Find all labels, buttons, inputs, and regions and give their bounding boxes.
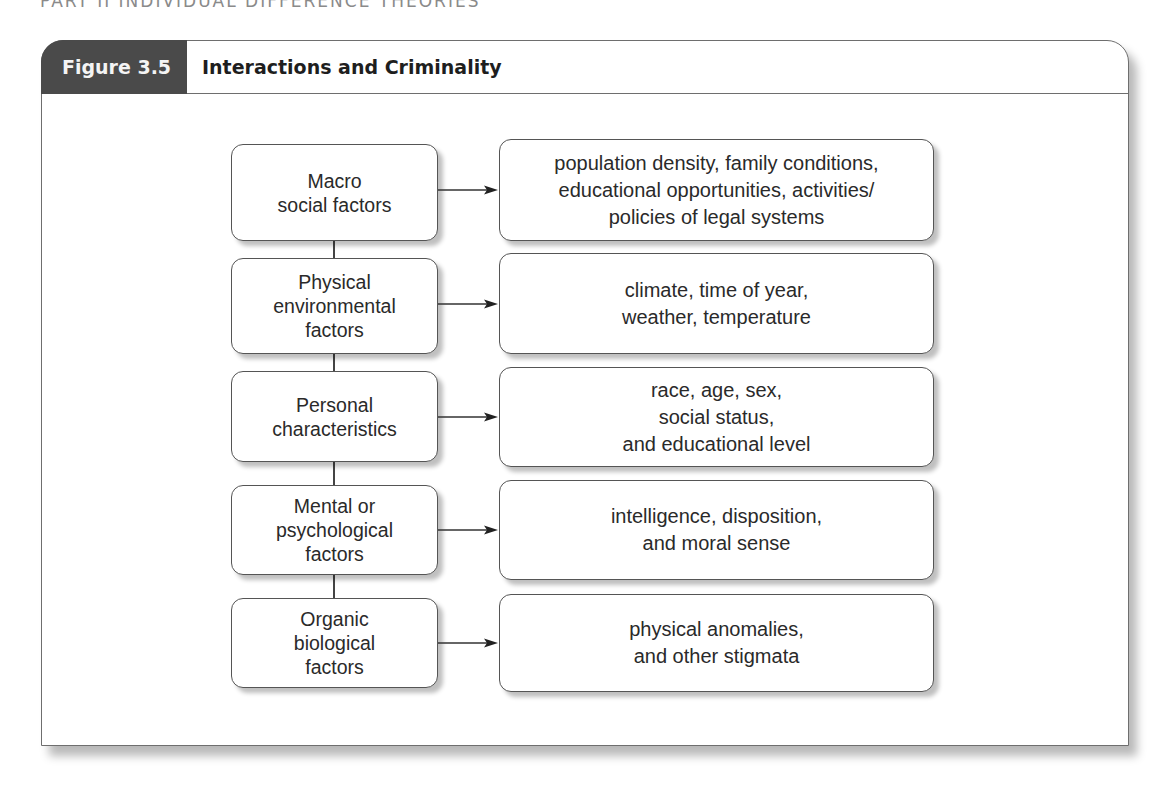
- factor-box-personal-characteristics: Personal characteristics: [231, 371, 438, 462]
- examples-box-personal-characteristics: race, age, sex, social status, and educa…: [499, 367, 934, 467]
- examples-box-organic-biological: physical anomalies, and other stigmata: [499, 594, 934, 692]
- connector-line: [333, 354, 335, 371]
- arrow-right-icon: [438, 298, 498, 310]
- arrow-right-icon: [438, 637, 498, 649]
- figure-title: Interactions and Criminality: [202, 41, 502, 93]
- figure-label: Figure 3.5: [41, 40, 187, 94]
- running-head: PART II INDIVIDUAL DIFFERENCE THEORIES: [40, 0, 480, 11]
- arrow-right-icon: [438, 411, 498, 423]
- factor-box-macro-social: Macro social factors: [231, 144, 438, 241]
- arrow-right-icon: [438, 524, 498, 536]
- connector-line: [333, 575, 335, 598]
- examples-box-physical-environmental: climate, time of year, weather, temperat…: [499, 253, 934, 354]
- examples-box-mental-psychological: intelligence, disposition, and moral sen…: [499, 480, 934, 580]
- connector-line: [333, 240, 335, 258]
- factor-box-mental-psychological: Mental or psychological factors: [231, 485, 438, 575]
- figure-header: Figure 3.5 Interactions and Criminality: [42, 41, 1128, 94]
- factor-box-organic-biological: Organic biological factors: [231, 598, 438, 688]
- arrow-right-icon: [438, 184, 498, 196]
- examples-box-macro-social: population density, family conditions, e…: [499, 139, 934, 241]
- factor-box-physical-environmental: Physical environmental factors: [231, 258, 438, 354]
- connector-line: [333, 462, 335, 485]
